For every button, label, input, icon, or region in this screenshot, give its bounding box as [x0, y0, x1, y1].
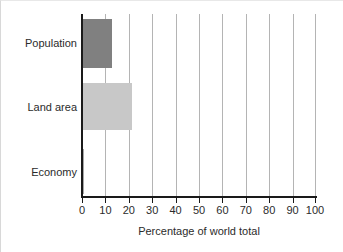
tickmark-10 — [105, 198, 106, 203]
bar-population — [82, 19, 112, 68]
tick-label-100: 100 — [300, 204, 330, 217]
category-label-economy: Economy — [3, 166, 77, 178]
gridline-90 — [293, 14, 294, 197]
tickmark-70 — [246, 198, 247, 203]
gridline-70 — [246, 14, 247, 197]
tickmark-30 — [152, 198, 153, 203]
gridline-80 — [269, 14, 270, 197]
gridline-30 — [152, 14, 153, 197]
tickmark-0 — [82, 198, 83, 203]
gridline-100 — [315, 14, 316, 197]
bar-chart-figure: Population Land area Economy 0 10 20 30 … — [0, 0, 343, 252]
gridline-60 — [222, 14, 223, 197]
gridline-40 — [176, 14, 177, 197]
tickmark-60 — [222, 198, 223, 203]
bar-land-area — [82, 83, 132, 130]
tickmark-50 — [199, 198, 200, 203]
tickmark-80 — [269, 198, 270, 203]
gridline-50 — [199, 14, 200, 197]
category-axis-labels: Population Land area Economy — [1, 1, 77, 252]
tickmark-20 — [129, 198, 130, 203]
tickmark-100 — [315, 198, 316, 203]
category-label-land-area: Land area — [3, 101, 77, 113]
category-label-population: Population — [3, 37, 77, 49]
tickmark-90 — [293, 198, 294, 203]
plot-area — [82, 14, 316, 197]
x-axis-title: Percentage of world total — [82, 225, 316, 237]
tickmark-40 — [176, 198, 177, 203]
axis-line-zero — [81, 14, 83, 197]
